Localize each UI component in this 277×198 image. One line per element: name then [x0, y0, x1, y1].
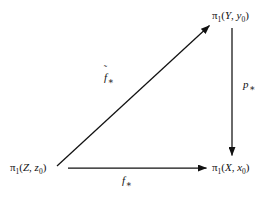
pi-symbol-y: π	[212, 9, 218, 21]
basepoint-subscript-x: 0	[242, 167, 246, 176]
diagonal-arrow-label: ˜f∗	[104, 72, 113, 83]
star-subscript-horizontal: ∗	[126, 179, 132, 189]
space-name-x: X	[225, 161, 232, 173]
horizontal-arrow-label: f∗	[122, 175, 131, 186]
commutative-diagram: π1(Z, z0) π1(Y, y0) π1(X, x0) ˜f∗ p∗ f∗	[0, 0, 277, 198]
close-paren-y: )	[245, 9, 249, 21]
comma-z: ,	[29, 161, 32, 173]
basepoint-subscript-y: 0	[242, 15, 246, 24]
basepoint-y: y	[237, 9, 242, 21]
node-label-pi1-Z: π1(Z, z0)	[10, 162, 46, 173]
pi-symbol-x: π	[212, 161, 218, 173]
f-base-letter-horizontal: f	[122, 174, 125, 186]
pi-symbol-z: π	[10, 161, 16, 173]
tilde-accent: ˜	[104, 65, 107, 75]
pi-subscript-z: 1	[16, 167, 20, 176]
f-tilde-glyph: ˜f	[104, 72, 107, 83]
p-base-letter: p	[243, 78, 249, 90]
comma-x: ,	[232, 161, 235, 173]
comma-y: ,	[231, 9, 234, 21]
pi-subscript-y: 1	[218, 15, 222, 24]
basepoint-subscript-z: 0	[39, 167, 43, 176]
star-subscript-vertical: ∗	[249, 83, 255, 93]
close-paren-x: )	[246, 161, 250, 173]
diagonal-arrow-line	[57, 26, 210, 167]
node-label-pi1-X: π1(X, x0)	[212, 162, 250, 173]
close-paren-z: )	[43, 161, 47, 173]
star-subscript-diagonal: ∗	[108, 76, 114, 86]
vertical-arrow-label: p∗	[243, 79, 255, 90]
node-label-pi1-Y: π1(Y, y0)	[212, 10, 249, 21]
pi-subscript-x: 1	[218, 167, 222, 176]
